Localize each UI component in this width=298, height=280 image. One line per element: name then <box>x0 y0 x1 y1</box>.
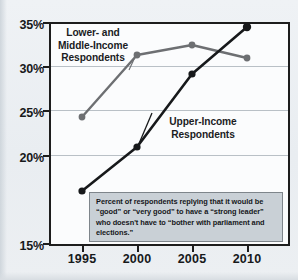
series-label-lower-middle-line3: Respondents <box>52 52 134 65</box>
data-point-upper-1995 <box>78 187 85 194</box>
series-label-lower-middle-line1: Lower- and <box>52 27 134 40</box>
series-label-lower-middle-line2: Middle-Income <box>52 40 134 53</box>
data-point-upper-2010 <box>243 23 251 31</box>
data-point-upper-2000 <box>133 143 140 150</box>
data-point-upper-2005 <box>188 70 195 77</box>
series-label-upper-income: Upper-Income Respondents <box>155 116 251 141</box>
line-chart-figure: 35% 30% 25% 20% 15% 1995 2000 2005 2010 … <box>0 0 298 280</box>
series-label-upper-line1: Upper-Income <box>155 116 251 129</box>
chart-caption-box: Percent of respondents replying that it … <box>89 192 283 242</box>
data-point-lower-middle-1995 <box>79 114 86 121</box>
data-point-lower-middle-2000 <box>134 52 141 59</box>
series-label-lower-middle-income: Lower- and Middle-Income Respondents <box>52 27 134 65</box>
data-point-lower-middle-2005 <box>189 42 196 49</box>
data-point-lower-middle-2010 <box>244 55 251 62</box>
series-label-upper-line2: Respondents <box>155 129 251 142</box>
